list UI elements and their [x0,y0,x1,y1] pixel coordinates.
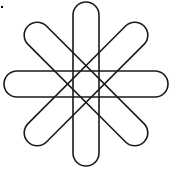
stadium-group [4,2,168,166]
stadium-shape-135deg [19,17,153,151]
stadium-shape-0deg [4,71,168,97]
stadium-shape-90deg [73,2,99,166]
stadium-shape-45deg [19,17,153,151]
star-diagram [0,0,171,169]
